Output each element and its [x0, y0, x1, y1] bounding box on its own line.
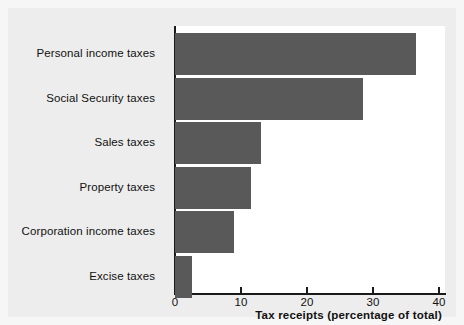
bar [175, 256, 192, 298]
bar [175, 211, 234, 253]
category-label: Excise taxes [89, 270, 155, 282]
x-axis-title: Tax receipts (percentage of total) [8, 309, 442, 321]
bar [175, 167, 251, 209]
bar-row [8, 256, 456, 298]
bar-row [8, 167, 456, 209]
category-label: Social Security taxes [46, 92, 155, 104]
category-label: Personal income taxes [37, 47, 155, 59]
category-label: Sales taxes [94, 136, 155, 148]
bar [175, 78, 363, 120]
chart-figure: 010203040 Personal income taxesSocial Se… [0, 0, 464, 325]
bar-row [8, 122, 456, 164]
category-label: Property taxes [79, 181, 155, 193]
bar [175, 122, 261, 164]
bar [175, 33, 416, 75]
category-label: Corporation income taxes [22, 225, 155, 237]
